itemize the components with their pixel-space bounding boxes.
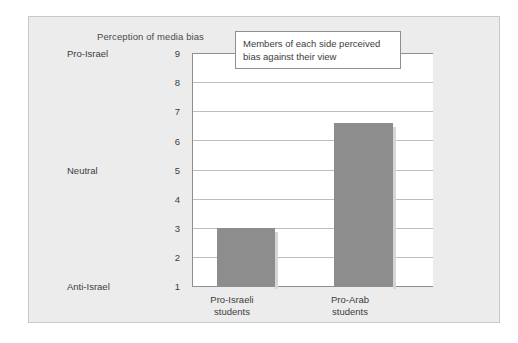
y-tick-3: 3 <box>158 223 180 234</box>
bar-pro-israeli-students <box>217 228 275 286</box>
callout-line2: bias against their view <box>243 50 393 63</box>
chart-title: Perception of media bias <box>97 31 204 42</box>
y-tick-4: 4 <box>158 194 180 205</box>
gridline-4 <box>193 199 433 200</box>
y-tick-5: 5 <box>158 165 180 176</box>
x-label-line2: students <box>310 306 390 318</box>
x-label-pro-israeli-students: Pro-Israeli students <box>192 294 272 318</box>
figure-page: Perception of media bias 9 8 7 6 5 4 3 2… <box>0 0 518 343</box>
gridline-7 <box>193 111 433 112</box>
y-tick-7: 7 <box>158 106 180 117</box>
gridline-6 <box>193 140 433 141</box>
y-tick-6: 6 <box>158 136 180 147</box>
plot-area <box>192 53 433 287</box>
annotation-callout: Members of each side perceived bias agai… <box>235 31 401 69</box>
gridline-8 <box>193 82 433 83</box>
y-tick-8: 8 <box>158 77 180 88</box>
bar-pro-arab-students <box>334 123 393 286</box>
callout-line1: Members of each side perceived <box>243 37 393 50</box>
y-tick-1: 1 <box>158 281 180 292</box>
x-label-line1: Pro-Arab <box>310 294 390 306</box>
x-label-line2: students <box>192 306 272 318</box>
y-axis-label-pro-israel: Pro-Israel <box>67 48 153 59</box>
y-tick-9: 9 <box>158 48 180 59</box>
x-label-line1: Pro-Israeli <box>192 294 272 306</box>
x-label-pro-arab-students: Pro-Arab students <box>310 294 390 318</box>
y-axis-label-anti-israel: Anti-Israel <box>67 281 153 292</box>
gridline-5 <box>193 170 433 171</box>
y-tick-2: 2 <box>158 252 180 263</box>
y-axis-label-neutral: Neutral <box>67 165 153 176</box>
